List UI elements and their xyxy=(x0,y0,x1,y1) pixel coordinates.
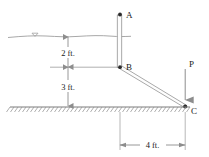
joint-markers xyxy=(118,13,187,109)
ground-hatching xyxy=(7,107,191,112)
dimension-2ft-label: 2 ft. xyxy=(61,48,75,58)
dimension-2ft: 2 ft. xyxy=(61,37,75,67)
dimension-4ft: 4 ft. xyxy=(120,112,185,150)
load-P-group: P xyxy=(185,59,194,100)
point-label-B: B xyxy=(126,62,132,72)
dimension-4ft-label: 4 ft. xyxy=(146,140,160,150)
dimension-3ft-label: 3 ft. xyxy=(61,82,75,92)
point-label-C: C xyxy=(191,106,197,116)
point-label-A: A xyxy=(126,10,133,20)
load-P-label: P xyxy=(189,59,194,69)
member-BC xyxy=(120,66,187,108)
dimension-3ft: 3 ft. xyxy=(61,67,75,106)
member-AB-body xyxy=(117,15,121,68)
member-AB xyxy=(117,15,121,68)
water-surface-line xyxy=(8,36,131,38)
water-surface-group xyxy=(8,33,131,37)
point-A-marker xyxy=(118,13,122,17)
diagram-canvas: A B C P xyxy=(0,0,209,157)
ground-surface-group xyxy=(7,107,191,112)
member-BC-body xyxy=(120,66,187,108)
engineering-diagram-figure: A B C P xyxy=(0,0,209,157)
point-B-marker xyxy=(118,65,122,69)
